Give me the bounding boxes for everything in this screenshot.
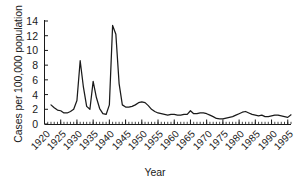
- y-tick-marks: [45, 21, 49, 124]
- x-axis-label: Year: [100, 166, 210, 178]
- x-tick-marks-major: [45, 120, 288, 125]
- x-tick-marks-minor: [45, 122, 292, 124]
- line-chart-figure: Cases per 100,000 population 02468101214…: [0, 0, 296, 182]
- data-series-line: [51, 25, 291, 118]
- plot-area: [0, 0, 296, 182]
